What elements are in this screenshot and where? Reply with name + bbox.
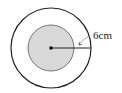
center-point	[49, 46, 53, 50]
ring-width-label: 6cm	[93, 29, 112, 41]
concentric-circles-diagram: 6cm	[0, 0, 122, 93]
